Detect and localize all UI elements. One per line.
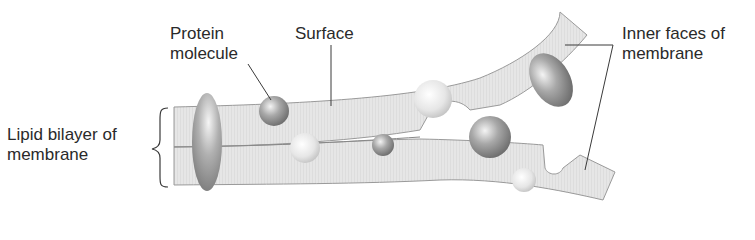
protein-light-upper xyxy=(414,80,452,118)
lower-leaflet xyxy=(174,139,615,200)
protein-label-line1: Protein xyxy=(170,24,238,44)
protein-molecule-label: Protein molecule xyxy=(170,24,238,64)
protein-dark-gap xyxy=(469,116,511,158)
inner-faces-label: Inner faces of membrane xyxy=(622,24,725,64)
inner-faces-leader xyxy=(565,45,613,170)
surface-protein xyxy=(259,96,289,126)
embedded-protein-small xyxy=(372,134,394,156)
bilayer-label-line1: Lipid bilayer of xyxy=(7,125,117,145)
protein-leader xyxy=(248,64,271,100)
lipid-bilayer-label: Lipid bilayer of membrane xyxy=(7,125,117,165)
bilayer-brace xyxy=(152,108,168,187)
inner-label-line1: Inner faces of xyxy=(622,24,725,44)
surface-label: Surface xyxy=(295,24,354,44)
embedded-protein-light xyxy=(290,133,320,163)
transmembrane-protein xyxy=(192,93,222,191)
bilayer-label-line2: membrane xyxy=(7,145,117,165)
protein-light-lower xyxy=(512,168,536,192)
protein-label-line2: molecule xyxy=(170,44,238,64)
inner-label-line2: membrane xyxy=(622,44,725,64)
